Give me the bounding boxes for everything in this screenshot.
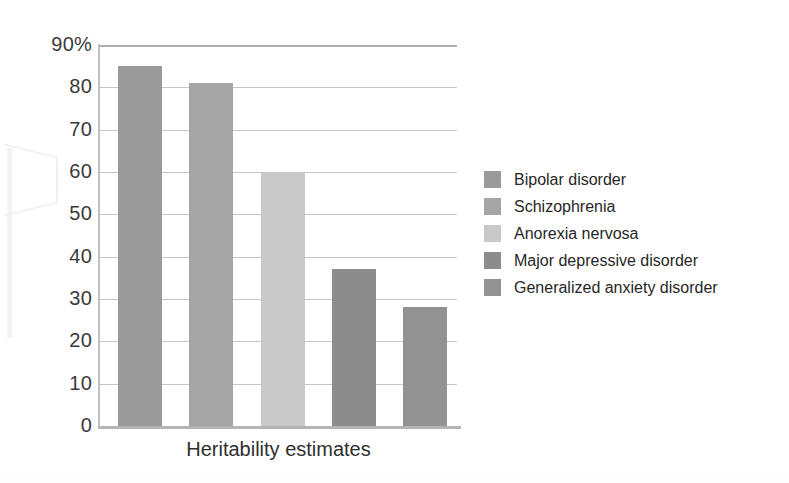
y-tick-label-50: 50	[6, 203, 92, 223]
y-tick-label-30: 30	[6, 288, 92, 308]
y-tick-label-0: 0	[6, 415, 92, 435]
y-tick-label-60: 60	[6, 161, 92, 181]
legend-item-generalized-anxiety-disorder: Generalized anxiety disorder	[484, 274, 784, 301]
legend-item-bipolar-disorder: Bipolar disorder	[484, 166, 784, 193]
legend-swatch-icon	[484, 198, 501, 215]
y-tick-label-80: 80	[6, 76, 92, 96]
y-tick-label-90: 90%	[6, 34, 92, 54]
legend-swatch-icon	[484, 252, 501, 269]
legend-item-label: Anorexia nervosa	[514, 225, 639, 243]
legend-swatch-icon	[484, 279, 501, 296]
legend-item-label: Schizophrenia	[514, 198, 615, 216]
legend-item-major-depressive-disorder: Major depressive disorder	[484, 247, 784, 274]
y-tick-label-20: 20	[6, 330, 92, 350]
legend-item-label: Major depressive disorder	[514, 252, 698, 270]
bar-series	[100, 45, 457, 426]
legend-swatch-icon	[484, 225, 501, 242]
bar-generalized-anxiety-disorder	[403, 307, 447, 426]
chart-legend: Bipolar disorderSchizophreniaAnorexia ne…	[484, 166, 784, 301]
y-axis-tick-labels: 0102030405060708090%	[0, 0, 92, 483]
x-axis-label: Heritability estimates	[100, 437, 457, 461]
legend-swatch-icon	[484, 171, 501, 188]
legend-item-label: Bipolar disorder	[514, 171, 626, 189]
bar-anorexia-nervosa	[261, 172, 305, 426]
bar-bipolar-disorder	[118, 66, 162, 426]
legend-item-label: Generalized anxiety disorder	[514, 279, 718, 297]
heritability-bar-chart: 0102030405060708090% Heritability estima…	[0, 0, 789, 483]
y-tick-label-40: 40	[6, 246, 92, 266]
plot-area	[100, 45, 457, 426]
y-tick-label-70: 70	[6, 119, 92, 139]
y-tick-label-10: 10	[6, 373, 92, 393]
bar-schizophrenia	[189, 83, 233, 426]
legend-item-anorexia-nervosa: Anorexia nervosa	[484, 220, 784, 247]
bar-major-depressive-disorder	[332, 269, 376, 426]
x-axis-line	[98, 426, 461, 429]
legend-item-schizophrenia: Schizophrenia	[484, 193, 784, 220]
